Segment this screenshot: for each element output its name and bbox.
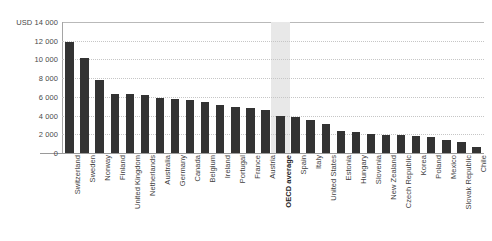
x-axis-tick-label: Spain bbox=[299, 155, 308, 174]
x-axis-tick-label: Belgium bbox=[208, 155, 217, 182]
bar bbox=[126, 94, 134, 153]
bar bbox=[80, 58, 88, 153]
bar-series bbox=[62, 22, 484, 153]
bar bbox=[65, 42, 73, 153]
x-axis-labels: SwitzerlandSwedenNorwayFinlandUnited Kin… bbox=[62, 155, 484, 241]
x-axis-tick-label: Australia bbox=[163, 155, 172, 185]
x-axis-tick-label: Estonia bbox=[344, 155, 353, 180]
x-axis-tick-label: Sweden bbox=[88, 155, 97, 182]
x-axis-tick-label: Italy bbox=[314, 155, 323, 169]
y-axis-tick-label: 6 000 bbox=[0, 92, 58, 101]
x-axis-tick-label: Poland bbox=[434, 155, 443, 179]
y-axis-tick-label: 0 bbox=[0, 149, 58, 158]
x-axis-tick-label: United Kingdom bbox=[133, 155, 142, 209]
x-axis-tick-label: Germany bbox=[178, 155, 187, 186]
bar bbox=[442, 140, 450, 153]
cropped-text-remnant bbox=[0, 0, 492, 9]
x-axis-tick-label: Czech Republic bbox=[404, 155, 413, 208]
x-axis-tick-label: Portugal bbox=[238, 155, 247, 183]
y-axis-tick-label: 2 000 bbox=[0, 130, 58, 139]
bar bbox=[382, 135, 390, 153]
x-axis-tick-label: OECD average bbox=[284, 155, 293, 208]
bar bbox=[412, 136, 420, 153]
x-axis-tick-label: New Zealand bbox=[389, 155, 398, 200]
bar bbox=[367, 134, 375, 153]
y-axis-tick-label: 10 000 bbox=[0, 55, 58, 64]
bar bbox=[427, 137, 435, 153]
x-axis-tick-label: Ireland bbox=[223, 155, 232, 178]
bar bbox=[261, 110, 269, 154]
x-axis-tick-label: Norway bbox=[103, 155, 112, 181]
x-axis-tick-label: Canada bbox=[193, 155, 202, 182]
x-axis-tick-label: Korea bbox=[419, 155, 428, 175]
x-axis-tick-label: Finland bbox=[118, 155, 127, 180]
x-axis-tick-label: Hungary bbox=[359, 155, 368, 184]
y-axis-tick-label: USD 14 000 bbox=[0, 18, 58, 27]
bar bbox=[231, 107, 239, 153]
bar bbox=[352, 132, 360, 153]
plot-area bbox=[62, 22, 484, 153]
bar bbox=[291, 117, 299, 153]
x-axis-tick-label: Austria bbox=[268, 155, 277, 179]
bar bbox=[472, 147, 480, 153]
bar bbox=[457, 142, 465, 153]
bar bbox=[276, 116, 284, 153]
bar bbox=[186, 100, 194, 153]
y-axis-tick-label: 12 000 bbox=[0, 36, 58, 45]
bar bbox=[95, 80, 103, 153]
bar bbox=[397, 135, 405, 153]
bar bbox=[111, 94, 119, 153]
bar-chart: 02 0004 0006 0008 00010 00012 000USD 14 … bbox=[0, 0, 492, 241]
x-axis-tick-label: Netherlands bbox=[148, 155, 157, 196]
y-axis-tick-label: 8 000 bbox=[0, 74, 58, 83]
x-axis-tick-label: Switzerland bbox=[73, 155, 82, 194]
bar bbox=[171, 99, 179, 153]
y-axis: 02 0004 0006 0008 00010 00012 000USD 14 … bbox=[0, 0, 58, 241]
y-axis-tick-label: 4 000 bbox=[0, 111, 58, 120]
bar bbox=[216, 105, 224, 153]
bar bbox=[141, 95, 149, 153]
x-axis-tick-label: Mexico bbox=[449, 155, 458, 179]
x-axis-tick-label: Slovak Republic bbox=[464, 155, 473, 210]
x-axis-tick-label: Slovenia bbox=[374, 155, 383, 184]
x-axis-tick-label: Chile bbox=[479, 155, 488, 172]
bar bbox=[156, 98, 164, 153]
bar bbox=[337, 131, 345, 153]
x-axis-tick-label: United States bbox=[329, 155, 338, 201]
bar bbox=[246, 108, 254, 153]
bar bbox=[201, 102, 209, 153]
x-axis-tick-label: France bbox=[253, 155, 262, 179]
bar bbox=[322, 124, 330, 153]
bar bbox=[306, 120, 314, 153]
